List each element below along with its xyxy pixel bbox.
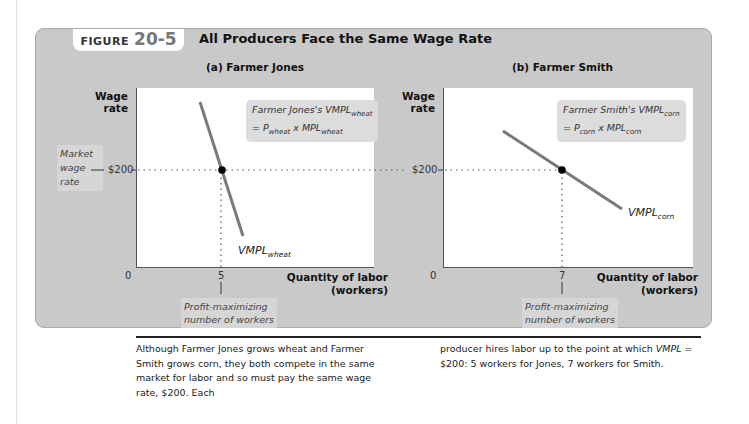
caption-divider bbox=[136, 336, 701, 338]
jones-equilibrium-point bbox=[218, 166, 226, 174]
caption-right: producer hires labor up to the point at … bbox=[440, 342, 695, 371]
caption-italic: VMPL bbox=[656, 343, 682, 354]
caption-text: producer hires labor up to the point at … bbox=[440, 343, 656, 354]
smith-equilibrium-point bbox=[558, 166, 566, 174]
caption-left: Although Farmer Jones grows wheat and Fa… bbox=[136, 342, 391, 400]
